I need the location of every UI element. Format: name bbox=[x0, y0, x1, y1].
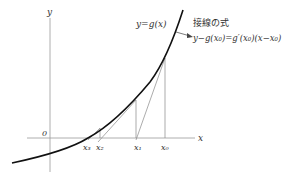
x3-label: x₃ bbox=[83, 143, 91, 152]
newton-method-diagram: y x 0 y=g(x) 接線の式 y−g(x₀)=g′(x₀)(x−x₀) x… bbox=[0, 0, 304, 178]
curve-label: y=g(x) bbox=[135, 19, 167, 29]
x2-label: x₂ bbox=[96, 143, 104, 152]
y-axis-label: y bbox=[46, 7, 53, 17]
tangent-at-x0 bbox=[136, 58, 165, 140]
tangent-title: 接線の式 bbox=[193, 17, 229, 28]
origin-label: 0 bbox=[42, 129, 47, 138]
x-axis-label: x bbox=[198, 133, 203, 143]
tangent-equation: y−g(x₀)=g′(x₀)(x−x₀) bbox=[192, 33, 281, 43]
tangent-at-x1 bbox=[98, 100, 136, 142]
x0-label: x₀ bbox=[161, 143, 170, 152]
curve-g bbox=[12, 10, 183, 163]
x1-label: x₁ bbox=[134, 143, 142, 152]
